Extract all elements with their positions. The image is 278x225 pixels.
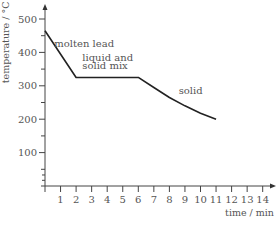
x-axis-arrow-icon — [270, 184, 276, 189]
x-tick-label: 2 — [73, 194, 79, 205]
x-tick-label: 9 — [182, 194, 188, 205]
axes — [41, 4, 276, 189]
y-tick-label: 200 — [18, 114, 37, 125]
x-tick-label: 6 — [135, 194, 141, 205]
y-axis-title: temperature / °C — [0, 2, 11, 84]
x-tick-label: 11 — [210, 194, 223, 205]
y-tick-label: 100 — [18, 147, 37, 158]
x-tick-label: 8 — [166, 194, 172, 205]
curve-annotation: molten lead — [54, 38, 114, 49]
y-tick-label: 500 — [18, 14, 37, 25]
y-tick-label: 400 — [18, 47, 37, 58]
x-axis-title: time / min — [225, 207, 274, 218]
x-tick-label: 4 — [104, 194, 110, 205]
x-tick-label: 12 — [225, 194, 238, 205]
x-tick-label: 1 — [57, 194, 63, 205]
x-tick-label: 3 — [88, 194, 94, 205]
cooling-curve-chart: 1002003004005001234567891011121314 time … — [0, 0, 278, 225]
x-tick-label: 7 — [151, 194, 157, 205]
x-tick-label: 14 — [256, 194, 269, 205]
x-tick-label: 5 — [120, 194, 126, 205]
x-tick-label: 13 — [241, 194, 254, 205]
y-axis-arrow-icon — [43, 4, 48, 10]
curve-annotation: solid mix — [82, 60, 128, 71]
y-tick-label: 300 — [18, 80, 37, 91]
x-tick-label: 10 — [194, 194, 207, 205]
curve-annotation: solid — [179, 85, 204, 96]
